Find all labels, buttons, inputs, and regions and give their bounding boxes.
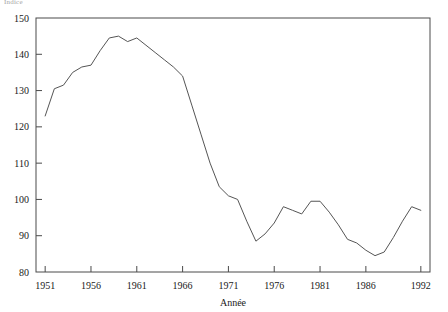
x-axis-tick-label: 1981 (310, 280, 330, 291)
line-chart-svg: 8090100110120130140150 19511956196119661… (0, 0, 448, 312)
x-axis-tick-label: 1961 (127, 280, 147, 291)
y-axis-tick-label: 130 (14, 85, 29, 96)
y-axis-tick-label: 90 (19, 230, 29, 241)
x-axis-title: Année (220, 297, 247, 308)
y-axis-tick-label: 80 (19, 267, 29, 278)
y-axis-tick-label: 120 (14, 121, 29, 132)
y-axis-tick-label: 140 (14, 49, 29, 60)
x-axis-tick-label: 1956 (81, 280, 101, 291)
x-axis-tick-label: 1951 (35, 280, 55, 291)
x-axis-tick-group: 195119561961196619711976198119861992 (35, 266, 431, 291)
y-axis-tick-label: 110 (14, 158, 29, 169)
data-line-series-indice (45, 36, 421, 256)
y-axis-tick-label: 100 (14, 194, 29, 205)
x-axis-tick-label: 1966 (173, 280, 193, 291)
x-axis-tick-label: 1986 (356, 280, 376, 291)
y-axis-tick-group: 8090100110120130140150 (14, 13, 42, 278)
plot-frame (36, 18, 430, 272)
y-axis-tick-label: 150 (14, 13, 29, 24)
x-axis-tick-label: 1976 (264, 280, 284, 291)
x-axis-tick-label: 1971 (218, 280, 238, 291)
x-axis-tick-label: 1992 (411, 280, 431, 291)
chart-container: Indice 8090100110120130140150 1951195619… (0, 0, 448, 312)
